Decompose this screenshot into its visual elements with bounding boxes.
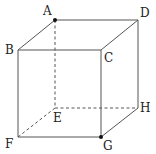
cube-svg: A D B C E H F G [0, 0, 156, 154]
label-A: A [42, 4, 52, 18]
label-D: D [140, 6, 150, 20]
cube-diagram: A D B C E H F G [0, 0, 156, 154]
edge-GH [101, 108, 138, 137]
vertex-dot-A [53, 18, 57, 22]
label-G: G [103, 139, 113, 153]
label-E: E [53, 111, 62, 125]
edge-AB [18, 20, 55, 50]
edge-DC [101, 20, 138, 50]
label-H: H [140, 101, 150, 115]
label-C: C [104, 51, 113, 65]
label-F: F [5, 137, 13, 151]
label-B: B [5, 43, 14, 57]
hidden-edge-EF [18, 108, 55, 137]
